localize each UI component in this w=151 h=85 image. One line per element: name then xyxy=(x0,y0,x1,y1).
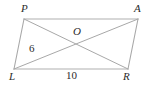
side-AR-line xyxy=(128,19,138,69)
intersection-label-O: O xyxy=(73,26,81,37)
geometry-figure: P A R L O 6 10 xyxy=(0,0,151,85)
measure-label-base-side: 10 xyxy=(66,70,77,81)
vertex-label-P: P xyxy=(21,3,28,14)
side-LP-line xyxy=(14,19,24,69)
vertex-label-L: L xyxy=(9,71,15,82)
measure-label-diagonal-segment: 6 xyxy=(29,43,35,54)
vertex-label-A: A xyxy=(134,3,141,14)
vertex-label-R: R xyxy=(123,71,130,82)
